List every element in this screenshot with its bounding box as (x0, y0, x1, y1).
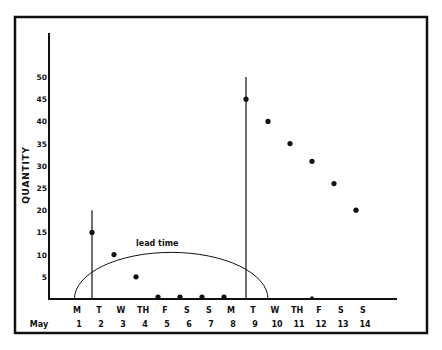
data-points (89, 97, 358, 300)
x-tick-date: 7 (208, 320, 214, 329)
data-point (221, 294, 226, 299)
x-tick-weekday: S (360, 306, 366, 315)
x-tick-date: 3 (120, 320, 126, 329)
x-tick-date: 9 (252, 320, 258, 329)
y-tick-label: 40 (37, 117, 47, 126)
x-tick-weekday: TH (291, 306, 303, 315)
data-point (243, 97, 248, 102)
data-point (155, 294, 160, 299)
y-axis-label: QUANTITY (21, 146, 31, 204)
y-tick-label: 15 (37, 228, 47, 237)
x-tick-weekday: F (162, 306, 167, 315)
x-tick-date: 6 (186, 320, 192, 329)
y-tick-label: 25 (37, 184, 47, 193)
x-row-label-month: May (30, 320, 49, 329)
x-tick-weekday: S (206, 306, 212, 315)
x-tick-weekday: T (96, 306, 102, 315)
data-point (353, 208, 358, 213)
order-lines (92, 77, 246, 299)
x-tick-weekday: W (271, 306, 280, 315)
x-tick-date: 4 (142, 320, 148, 329)
x-tick-weekday: M (73, 306, 81, 315)
y-tick-label: 5 (42, 273, 47, 282)
x-tick-date: 13 (337, 320, 348, 329)
lead-time-arc (74, 252, 268, 299)
data-point (111, 252, 116, 257)
chart-frame (15, 17, 427, 333)
data-point (265, 119, 270, 124)
x-tick-weekday: W (117, 306, 126, 315)
x-tick-date: 10 (271, 320, 283, 329)
data-point (331, 181, 336, 186)
x-tick-weekday: TH (137, 306, 149, 315)
data-point (133, 274, 138, 279)
x-tick-weekday: T (250, 306, 256, 315)
lead-time-label: lead time (136, 239, 179, 248)
y-tick-label: 10 (37, 251, 47, 260)
x-tick-date: 11 (293, 320, 305, 329)
y-tick-label: 45 (37, 95, 47, 104)
y-tick-label: 35 (37, 140, 47, 149)
x-tick-labels: M1T2W3TH4F5S6S7M8T9W10TH11F12S13S14 (73, 306, 371, 329)
data-point (177, 294, 182, 299)
y-tick-label: 50 (37, 73, 47, 82)
x-tick-date: 8 (230, 320, 236, 329)
data-point (309, 159, 314, 164)
x-tick-date: 5 (164, 320, 170, 329)
x-tick-weekday: M (227, 306, 235, 315)
data-point (287, 141, 292, 146)
x-tick-date: 12 (315, 320, 326, 329)
lead-time-chart: QUANTITY May 5101520253035404550 M1T2W3T… (0, 0, 442, 350)
x-tick-date: 2 (98, 320, 104, 329)
y-tick-label: 20 (37, 206, 47, 215)
data-point (199, 294, 204, 299)
y-tick-labels: 5101520253035404550 (37, 73, 47, 282)
annotations: lead time (74, 239, 268, 299)
data-point (89, 230, 94, 235)
x-tick-date: 1 (76, 320, 82, 329)
x-tick-weekday: F (316, 306, 321, 315)
x-tick-weekday: S (184, 306, 190, 315)
y-tick-label: 30 (37, 162, 47, 171)
x-tick-date: 14 (359, 320, 371, 329)
baseline-marker (310, 296, 314, 300)
x-tick-weekday: S (338, 306, 344, 315)
